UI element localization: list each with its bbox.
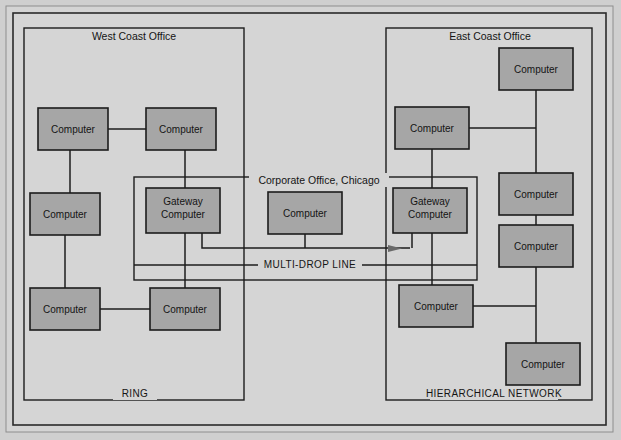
node-ec-n4[interactable]: Computer	[499, 225, 573, 267]
node-label: Computer	[43, 304, 88, 315]
caption-text: MULTI-DROP LINE	[264, 259, 356, 270]
node-ec-n2[interactable]: Computer	[395, 107, 469, 149]
group-title-text: Corporate Office, Chicago	[258, 174, 379, 186]
node-label: Computer	[410, 123, 455, 134]
node-label-line2: Computer	[161, 209, 206, 220]
caption-hierarchical-network: HIERARCHICAL NETWORK	[426, 386, 562, 400]
node-wc-n4[interactable]: Computer	[30, 288, 100, 330]
group-title-text: East Coast Office	[449, 30, 531, 42]
node-wc-n1[interactable]: Computer	[38, 108, 108, 150]
node-ec-n1[interactable]: Computer	[499, 48, 573, 90]
node-label-line1: Gateway	[410, 196, 449, 207]
network-diagram-page: Computer Computer Computer Computer Comp…	[0, 0, 621, 440]
node-gateway-east[interactable]: Gateway Computer	[393, 188, 467, 233]
node-label: Computer	[521, 359, 566, 370]
caption-multi-drop-line: MULTI-DROP LINE	[258, 258, 362, 272]
node-label: Computer	[514, 189, 559, 200]
node-corp-n1[interactable]: Computer	[268, 192, 342, 234]
node-label: Computer	[43, 209, 88, 220]
caption-text: HIERARCHICAL NETWORK	[426, 388, 562, 399]
node-label: Computer	[514, 64, 559, 75]
caption-text: RING	[122, 388, 149, 399]
node-wc-n2[interactable]: Computer	[146, 108, 216, 150]
group-title-text: West Coast Office	[92, 30, 176, 42]
group-title-east-coast: East Coast Office	[437, 29, 543, 43]
node-label: Computer	[514, 241, 559, 252]
group-title-west-coast: West Coast Office	[78, 29, 190, 43]
node-label: Computer	[163, 304, 208, 315]
node-label: Computer	[283, 208, 328, 219]
caption-ring: RING	[113, 386, 157, 400]
node-label: Computer	[51, 124, 96, 135]
node-ec-n5[interactable]: Computer	[399, 285, 473, 327]
node-label-line1: Gateway	[163, 196, 202, 207]
node-ec-n6[interactable]: Computer	[506, 343, 580, 385]
network-topology-diagram: Computer Computer Computer Computer Comp…	[0, 0, 621, 440]
node-label: Computer	[414, 301, 459, 312]
group-title-corporate-office: Corporate Office, Chicago	[249, 173, 389, 187]
node-gateway-west[interactable]: Gateway Computer	[146, 188, 220, 233]
node-wc-n5[interactable]: Computer	[150, 288, 220, 330]
node-ec-n3[interactable]: Computer	[499, 173, 573, 215]
node-wc-n3[interactable]: Computer	[30, 193, 100, 235]
node-label: Computer	[159, 124, 204, 135]
node-label-line2: Computer	[408, 209, 453, 220]
